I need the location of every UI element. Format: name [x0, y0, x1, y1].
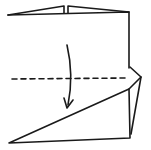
right-side-flap: [130, 67, 141, 134]
fold-arrow-curve: [67, 45, 71, 105]
origami-fold-diagram: [0, 0, 151, 150]
